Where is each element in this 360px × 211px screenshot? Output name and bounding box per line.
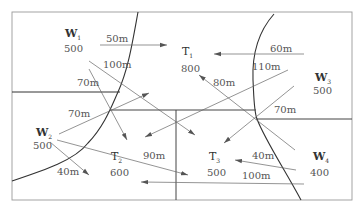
dist-w1-t3: 100m bbox=[103, 60, 132, 70]
node-t1-name: T1 bbox=[182, 46, 193, 59]
dist-w3-t3: 70m bbox=[274, 105, 296, 115]
node-t2-name: T2 bbox=[111, 151, 122, 164]
node-w4-value: 400 bbox=[310, 168, 329, 178]
edge-w4-t2 bbox=[141, 182, 304, 184]
node-w1-value: 500 bbox=[64, 44, 83, 54]
dist-w1-t2: 70m bbox=[77, 78, 99, 88]
node-w3-name: W3 bbox=[315, 72, 331, 85]
dist-w4-t3: 40m bbox=[252, 151, 274, 161]
node-t1-value: 800 bbox=[181, 64, 200, 74]
dist-w3-t2: 110m bbox=[252, 62, 281, 72]
node-t3-name: T3 bbox=[209, 151, 220, 164]
node-t3-value: 500 bbox=[207, 168, 226, 178]
node-w1-name: W1 bbox=[65, 28, 81, 41]
dist-w2-t3: 90m bbox=[143, 151, 165, 161]
node-w3-value: 500 bbox=[313, 86, 332, 96]
dist-w2-t1: 70m bbox=[68, 109, 90, 119]
node-t2-value: 600 bbox=[110, 168, 129, 178]
node-w4-name: W4 bbox=[313, 151, 329, 164]
dist-w4-t1: 80m bbox=[213, 78, 235, 88]
transport-map bbox=[0, 0, 360, 211]
edge-w4-t3 bbox=[235, 160, 296, 170]
dist-w2-t2: 40m bbox=[57, 167, 79, 177]
dist-w1-t1: 50m bbox=[106, 34, 128, 44]
node-w2-name: W2 bbox=[36, 127, 52, 140]
dist-w4-t2: 100m bbox=[242, 171, 271, 181]
dist-w3-t1: 60m bbox=[270, 44, 292, 54]
node-w2-value: 500 bbox=[33, 141, 52, 151]
